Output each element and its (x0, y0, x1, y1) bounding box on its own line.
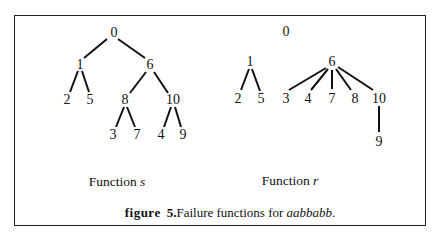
function-s-edge (70, 71, 78, 92)
caption-text: Failure functions for (176, 205, 286, 220)
function-s-label: Function s (89, 174, 146, 190)
function-r-node-6: 6 (329, 55, 336, 69)
function-r-node-2: 2 (235, 92, 242, 106)
function-s-node-7: 7 (134, 128, 141, 142)
function-s-node-4: 4 (158, 128, 165, 142)
function-s-edge (116, 107, 124, 127)
caption-number: 5. (167, 205, 177, 220)
function-s-edge (127, 107, 135, 127)
function-s-edge (154, 72, 168, 93)
function-s-node-9: 9 (180, 128, 187, 142)
function-r-node-7: 7 (329, 92, 336, 106)
function-s-node-10: 10 (166, 93, 180, 107)
function-s-edge (82, 71, 89, 92)
function-r-edge (241, 69, 249, 90)
caption-prefix: figure (125, 205, 161, 220)
function-s-edge (130, 72, 146, 93)
caption-end: . (332, 205, 335, 220)
function-s-edge (164, 107, 171, 127)
function-r-label-var: r (313, 173, 318, 188)
function-s-node-8: 8 (122, 93, 129, 107)
function-s-label-text: Function (89, 174, 140, 189)
function-r-label: Function r (262, 173, 319, 189)
function-s-node-5: 5 (87, 93, 94, 107)
function-s-edge (118, 39, 145, 58)
function-s-node-0: 0 (111, 26, 118, 40)
function-r-node-10: 10 (372, 92, 386, 106)
function-s-edge (175, 107, 181, 127)
function-r-label-text: Function (262, 173, 313, 188)
function-r-node-3: 3 (283, 92, 290, 106)
function-r-node-8: 8 (352, 92, 359, 106)
function-r-edge (252, 69, 260, 91)
function-s-node-2: 2 (64, 93, 71, 107)
function-s-node-1: 1 (77, 58, 84, 72)
caption-word: aabbabb (287, 205, 333, 220)
function-r-edge (336, 69, 351, 90)
function-r-node-9: 9 (376, 135, 383, 149)
function-s-edge (84, 39, 107, 58)
function-r-node-1: 1 (247, 55, 254, 69)
function-r-node-4: 4 (305, 92, 312, 106)
function-s-node-6: 6 (147, 58, 154, 72)
function-r-node-0: 0 (283, 25, 290, 39)
figure-caption: figure5.Failure functions for aabbabb. (125, 205, 336, 221)
function-s-node-3: 3 (110, 128, 117, 142)
function-s-label-var: s (140, 174, 145, 189)
function-r-node-5: 5 (258, 92, 265, 106)
